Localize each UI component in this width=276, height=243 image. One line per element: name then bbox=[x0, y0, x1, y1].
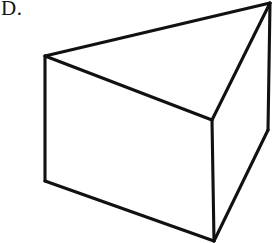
edge-mid-to-bottom-point bbox=[212, 120, 214, 241]
screenshot-canvas: D. bbox=[0, 0, 276, 243]
triangular-prism-figure bbox=[0, 0, 276, 243]
edge-top-right-to-back-right bbox=[268, 3, 270, 130]
